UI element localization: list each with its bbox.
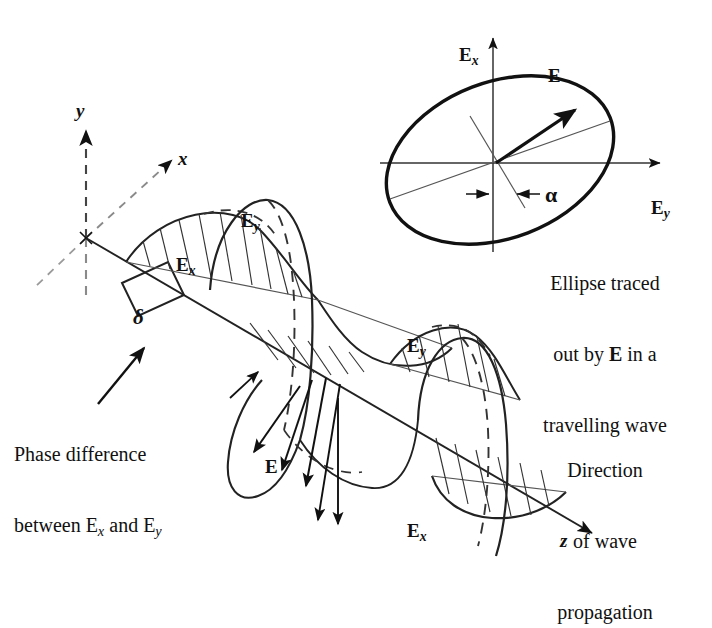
ex-wave1-chord (126, 262, 318, 300)
e-arrow-2 (282, 380, 312, 470)
phase-line2-mid: and E (104, 514, 155, 536)
ellipse-caption-suffix: in a (622, 343, 656, 365)
inset-e-vector-label: E (548, 65, 561, 87)
ellipse-caption-line1: Ellipse traced (505, 272, 705, 296)
inset-ex-axis-label: Ex (440, 22, 479, 92)
ey-wave2-outline (418, 338, 508, 556)
ex-wave1-trough-outline (318, 300, 452, 366)
propagation-line3: propagation (520, 601, 690, 625)
ellipse-caption-line3: travelling wave (505, 414, 705, 438)
phase-difference-annotation: Phase difference between Ex and Ey (14, 396, 162, 587)
y-axis-label: y (76, 100, 84, 122)
ellipse-caption-prefix: out by (553, 343, 609, 365)
phase-line2-sub-y: y (155, 523, 161, 539)
ey-first-label: Ey (222, 188, 260, 258)
ellipse-caption-bold-e: E (609, 343, 622, 365)
ex-second-symbol: E (407, 520, 420, 541)
ex-wave1-trough-chord (318, 300, 452, 348)
ey-link-lower (300, 420, 418, 488)
ey-second-symbol: E (407, 335, 420, 356)
coordinate-axes-group (34, 130, 172, 300)
ex-first-subscript: x (189, 264, 196, 279)
phase-line2-prefix: between E (14, 514, 98, 536)
ex-second-subscript: x (420, 530, 427, 545)
alpha-angle-label: α (545, 182, 557, 208)
phase-difference-line1: Phase difference (14, 443, 162, 467)
propagation-line2: of wave (520, 530, 690, 554)
ey-wave1-hidden-edge (268, 200, 295, 430)
ey-wave-second-crest (418, 338, 508, 556)
ex-first-symbol: E (176, 254, 189, 275)
inset-ey-subscript: y (664, 207, 670, 222)
x-axis-extension (34, 238, 86, 288)
ey-second-label: Ey (388, 313, 426, 383)
e-arrow-1 (254, 386, 300, 452)
ex-second-label: Ex (388, 498, 427, 568)
e-vector-wave-label: E (265, 456, 278, 478)
inset-ey-symbol: E (651, 197, 664, 218)
inset-ex-subscript: x (472, 54, 479, 69)
field-vector-arrows (230, 372, 340, 524)
ey-first-subscript: y (254, 220, 260, 235)
x-axis-line (86, 160, 172, 238)
ey-wave-linking-sweep (284, 420, 418, 488)
ellipse-caption-line2: out by E in a (505, 343, 705, 367)
ey-second-subscript: y (420, 345, 426, 360)
x-axis-label: x (178, 148, 188, 170)
e-arrow-6 (230, 372, 258, 398)
inset-ex-symbol: E (459, 44, 472, 65)
e-field-vector-arrow (496, 110, 575, 163)
ellipse-caption: Ellipse traced out by E in a travelling … (505, 225, 705, 485)
phase-difference-line2: between Ex and Ey (14, 514, 162, 540)
delta-phase-symbol: δ (133, 305, 144, 330)
ey-first-symbol: E (241, 210, 254, 231)
ex-first-label: Ex (157, 232, 196, 302)
